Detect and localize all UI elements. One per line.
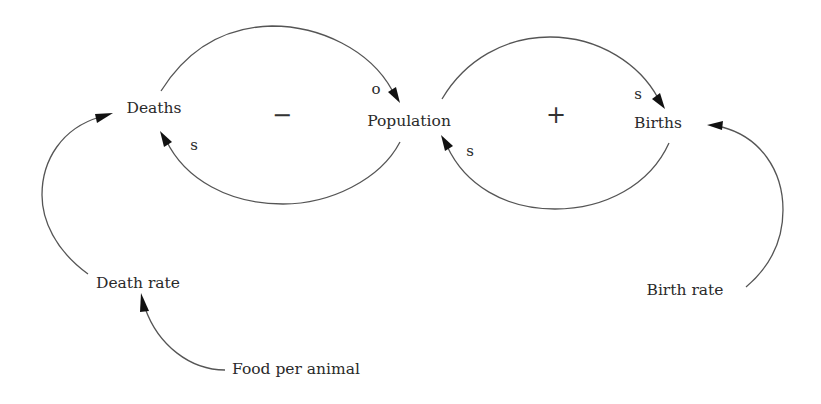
link-deaths-to-population	[161, 26, 400, 103]
reinforcing-loop-sign: +	[546, 101, 566, 129]
polarity-label-population-to-deaths: s	[190, 136, 198, 154]
link-birth-rate-to-births	[707, 121, 783, 287]
link-births-to-population	[441, 135, 669, 209]
node-death-rate: Death rate	[96, 274, 180, 292]
polarity-label-births-to-population: s	[466, 142, 474, 160]
arrowhead-icon	[441, 135, 453, 151]
node-food-per-animal: Food per animal	[232, 360, 360, 378]
node-deaths: Deaths	[126, 99, 181, 117]
node-births: Births	[634, 114, 682, 132]
link-death-rate-to-deaths	[42, 113, 113, 274]
arrowhead-icon	[160, 131, 172, 147]
polarity-label-population-to-births: s	[634, 85, 642, 103]
balancing-loop-sign: −	[272, 101, 292, 129]
causal-loop-diagram: o s s s − + Deaths Population Births Dea…	[0, 0, 821, 404]
arrowhead-icon	[95, 113, 113, 123]
arrowhead-icon	[707, 121, 723, 130]
node-birth-rate: Birth rate	[647, 281, 724, 299]
link-food-per-animal-to-death-rate	[140, 293, 225, 370]
polarity-label-deaths-to-population: o	[371, 80, 380, 98]
arrowhead-icon	[388, 87, 400, 103]
arrowhead-icon	[652, 93, 665, 109]
link-population-to-births	[442, 37, 665, 109]
node-population: Population	[367, 112, 451, 130]
arrowhead-icon	[140, 293, 149, 312]
